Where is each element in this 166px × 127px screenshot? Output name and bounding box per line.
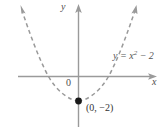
graph-canvas — [0, 0, 166, 127]
origin-label: 0 — [66, 78, 71, 88]
x-axis — [18, 73, 157, 80]
parabola-figure: y x 0 (0, −2) y = x2 − 2 — [0, 0, 166, 127]
equation-suffix: − 2 — [137, 50, 154, 61]
y-axis — [75, 4, 82, 127]
equation-prefix: y = x — [113, 50, 134, 61]
equation-label: y = x2 − 2 — [113, 50, 154, 61]
vertex-point-label: (0, −2) — [86, 103, 113, 113]
vertex-point-marker — [75, 98, 82, 105]
y-axis-label: y — [61, 2, 65, 12]
x-axis-label: x — [152, 77, 156, 87]
